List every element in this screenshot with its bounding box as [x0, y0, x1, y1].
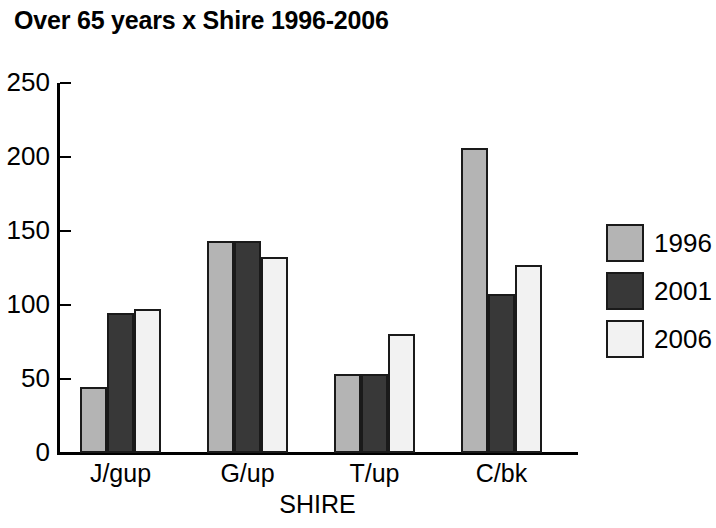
- x-axis-tick-label: J/gup: [50, 459, 191, 487]
- bar: [234, 241, 261, 453]
- y-axis-tick-label: 100: [0, 291, 50, 317]
- y-axis-tick-label: 0: [0, 439, 50, 465]
- legend-swatch: [606, 320, 644, 358]
- bar: [361, 374, 388, 453]
- bar: [134, 309, 161, 453]
- bar: [515, 265, 542, 453]
- bars-layer: [57, 83, 578, 453]
- y-axis-tick-label: 200: [0, 143, 50, 169]
- legend-label: 1996: [654, 228, 712, 258]
- y-axis-tick-label-text: 150: [7, 217, 50, 243]
- x-axis-tick-label: C/bk: [431, 459, 572, 487]
- y-axis-tick-label-text: 0: [36, 439, 50, 465]
- x-axis-title: SHIRE: [57, 490, 578, 518]
- legend-label: 2001: [654, 276, 712, 306]
- bar: [488, 294, 515, 453]
- y-axis-tick-label: 150: [0, 217, 50, 243]
- legend-swatch: [606, 224, 644, 262]
- y-axis-tick-label-text: 50: [21, 365, 50, 391]
- y-axis-tick-label-text: 250: [7, 69, 50, 95]
- bar: [261, 257, 288, 453]
- y-axis-tick-label-text: 100: [7, 291, 50, 317]
- chart-title: Over 65 years x Shire 1996-2006: [14, 4, 389, 36]
- y-axis-tick-label: 50: [0, 365, 50, 391]
- x-axis-tick-label: T/up: [304, 459, 445, 487]
- legend-label: 2006: [654, 324, 712, 354]
- x-axis-tick-label: G/up: [177, 459, 318, 487]
- bar: [461, 148, 488, 453]
- bar: [107, 313, 134, 453]
- legend-swatch: [606, 272, 644, 310]
- y-axis-tick-label: 250: [0, 69, 50, 95]
- bar: [388, 334, 415, 453]
- bar-chart-figure: Over 65 years x Shire 1996-2006 05010015…: [0, 0, 716, 528]
- y-axis-tick-label-text: 200: [7, 143, 50, 169]
- bar: [334, 374, 361, 453]
- bar: [207, 241, 234, 453]
- bar: [80, 387, 107, 453]
